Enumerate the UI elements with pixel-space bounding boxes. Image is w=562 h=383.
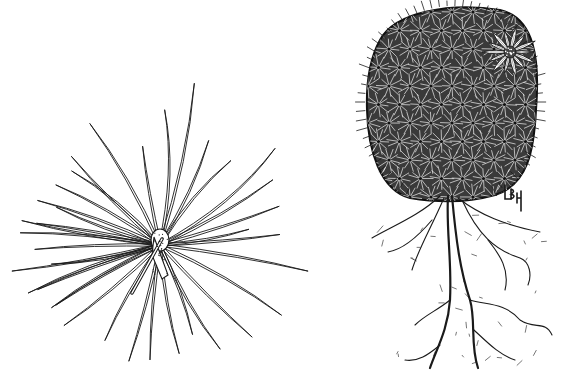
- spine-cluster-drawing: [12, 84, 307, 361]
- cactus-plant-drawing: [355, 0, 560, 211]
- botanical-illustration: [0, 0, 562, 383]
- cactus-roots-drawing: [372, 196, 552, 368]
- illustration-canvas: LBH: [0, 0, 562, 383]
